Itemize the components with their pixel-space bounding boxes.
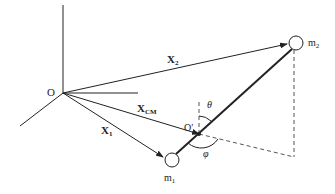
coordinate-axes	[20, 5, 138, 126]
x2-label: X2	[167, 53, 179, 67]
axis-diagonal	[20, 93, 63, 126]
theta-arc	[199, 116, 211, 121]
projection-dashed-horizontal	[199, 134, 294, 157]
origin-prime-label: O′	[184, 122, 193, 133]
m1-label: m1	[164, 172, 176, 185]
x1-label: X1	[101, 124, 113, 138]
vector-x1	[63, 93, 163, 157]
mass-m1	[165, 153, 179, 167]
theta-label: θ	[207, 99, 212, 110]
vector-x2	[63, 44, 287, 93]
mass-m2	[289, 36, 303, 50]
vector-xcm	[63, 93, 199, 134]
origin-label: O	[47, 86, 55, 98]
phi-label: φ	[203, 148, 209, 159]
xcm-label: XCM	[137, 102, 157, 116]
m2-label: m2	[308, 37, 320, 50]
center-of-mass-point	[197, 132, 201, 136]
two-body-diagram: O O′ X2 XCM X1 m2 m1 θ φ	[0, 0, 335, 194]
